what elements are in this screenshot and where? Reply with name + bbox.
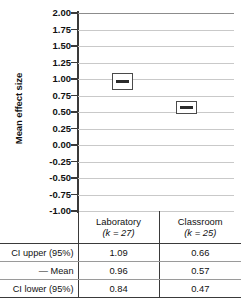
plot-region: 2.001.751.501.251.000.750.500.250.00-0.2…	[78, 13, 234, 211]
y-axis-tick-label: 0.00	[26, 140, 71, 150]
row-label-ci-upper: CI upper (95%)	[0, 244, 78, 262]
gridline	[78, 63, 234, 64]
gridline	[78, 79, 234, 80]
data-table: Laboratory (k = 27) Classroom (k = 25) C…	[0, 211, 241, 298]
cell-ci-upper-laboratory: 1.09	[78, 244, 159, 262]
gridline	[78, 178, 234, 179]
y-axis-tick-label: 0.25	[26, 124, 71, 134]
y-axis-tick	[71, 194, 78, 196]
y-axis-tick	[71, 161, 78, 163]
col-header-name-0: Laboratory	[79, 216, 159, 227]
y-axis-tick-label: 2.00	[26, 8, 71, 18]
y-axis-tick	[71, 78, 78, 80]
row-label-ci-lower: CI lower (95%)	[0, 280, 78, 298]
table-header-row: Laboratory (k = 27) Classroom (k = 25)	[0, 211, 241, 244]
gridline	[78, 145, 234, 146]
table-col-header-classroom: Classroom (k = 25)	[159, 211, 241, 244]
mean-line-marker-classroom	[180, 106, 193, 109]
y-axis-tick-label: -0.25	[26, 157, 71, 167]
row-label-mean: — Mean	[0, 262, 78, 280]
data-table-wrap: Laboratory (k = 27) Classroom (k = 25) C…	[0, 211, 241, 298]
cell-mean-classroom: 0.57	[159, 262, 241, 280]
cell-ci-lower-classroom: 0.47	[159, 280, 241, 298]
chart-area: Mean effect size 2.001.751.501.251.000.7…	[0, 0, 241, 232]
col-header-name-1: Classroom	[160, 216, 242, 227]
gridline	[78, 46, 234, 47]
y-axis-tick-label: -0.75	[26, 190, 71, 200]
y-axis-tick	[71, 12, 78, 14]
table-row: — Mean 0.96 0.57	[0, 262, 241, 280]
y-axis-tick	[71, 144, 78, 146]
cell-ci-upper-classroom: 0.66	[159, 244, 241, 262]
table-col-header-laboratory: Laboratory (k = 27)	[78, 211, 159, 244]
y-axis-tick-label: 1.50	[26, 41, 71, 51]
figure-root: Mean effect size 2.001.751.501.251.000.7…	[0, 0, 241, 299]
y-axis-tick-label: 1.00	[26, 74, 71, 84]
table-row: CI lower (95%) 0.84 0.47	[0, 280, 241, 298]
y-axis-tick	[71, 45, 78, 47]
y-axis-tick	[71, 62, 78, 64]
gridline	[78, 195, 234, 196]
gridline	[78, 96, 234, 97]
y-axis-tick-label: 1.25	[26, 58, 71, 68]
y-axis-tick-label: 1.75	[26, 25, 71, 35]
gridline	[78, 13, 234, 14]
gridline	[78, 129, 234, 130]
y-axis-tick	[71, 128, 78, 130]
y-axis-tick	[71, 177, 78, 179]
cell-ci-lower-laboratory: 0.84	[78, 280, 159, 298]
y-axis-tick	[71, 29, 78, 31]
cell-mean-laboratory: 0.96	[78, 262, 159, 280]
table-row: CI upper (95%) 1.09 0.66	[0, 244, 241, 262]
y-axis-tick-label: 0.50	[26, 107, 71, 117]
y-axis-tick	[71, 95, 78, 97]
y-axis-title: Mean effect size	[13, 44, 24, 174]
y-axis-tick	[71, 111, 78, 113]
col-header-sub-0: (k = 27)	[79, 227, 159, 238]
table-corner-cell	[0, 211, 78, 244]
gridline	[78, 162, 234, 163]
y-axis-tick-label: -0.50	[26, 173, 71, 183]
col-header-sub-1: (k = 25)	[160, 227, 242, 238]
y-axis-tick-label: 0.75	[26, 91, 71, 101]
gridline	[78, 112, 234, 113]
gridline	[78, 30, 234, 31]
mean-line-marker-laboratory	[116, 80, 129, 83]
